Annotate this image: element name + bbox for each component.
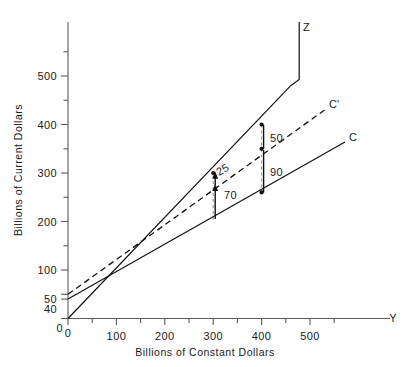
x-tick-marks: [68, 319, 334, 326]
gap-label-50: 50: [270, 132, 283, 144]
x-tick-labels: 0 100 200 300 400 500: [65, 327, 320, 342]
curve-c: [68, 142, 345, 299]
gap-label-70: 70: [224, 189, 237, 201]
curve-c-prime: [68, 110, 325, 294]
x-axis-end-label-Y: Y: [389, 312, 397, 324]
marker-point: [260, 190, 264, 194]
x-tick-label-400: 400: [252, 330, 272, 342]
chart-figure: 500 400 300 200 100 50 40 0 0: [0, 0, 402, 367]
x-tick-label-500: 500: [300, 330, 320, 342]
x-tick-label-300: 300: [203, 330, 223, 342]
y-tick-label-200: 200: [37, 216, 57, 228]
y-tick-labels: 500 400 300 200 100 50 40 0: [37, 70, 63, 334]
x-tick-label-0: 0: [65, 327, 72, 339]
y-tick-label-300: 300: [37, 167, 57, 179]
y-tick-label-40: 40: [44, 303, 57, 315]
x-axis-title: Billions of Constant Dollars: [135, 346, 274, 358]
y-axis-title: Billions of Current Dollars: [12, 104, 24, 236]
marker-point: [260, 122, 264, 126]
x-tick-label-200: 200: [155, 330, 175, 342]
curve-z: [68, 22, 299, 319]
curve-label-c-prime: C': [329, 98, 339, 110]
y-tick-label-100: 100: [37, 264, 57, 276]
x-tick-label-100: 100: [107, 330, 127, 342]
y-tick-label-500: 500: [37, 70, 57, 82]
y-tick-label-0: 0: [56, 322, 63, 334]
gap-label-90: 90: [270, 166, 283, 178]
y-tick-label-400: 400: [37, 119, 57, 131]
y-tick-marks: [61, 52, 68, 319]
marker-point: [211, 171, 215, 175]
marker-point: [260, 147, 264, 151]
curve-label-c: C: [349, 131, 357, 143]
curve-label-z: Z: [303, 21, 310, 33]
marker-dots: [211, 122, 264, 194]
